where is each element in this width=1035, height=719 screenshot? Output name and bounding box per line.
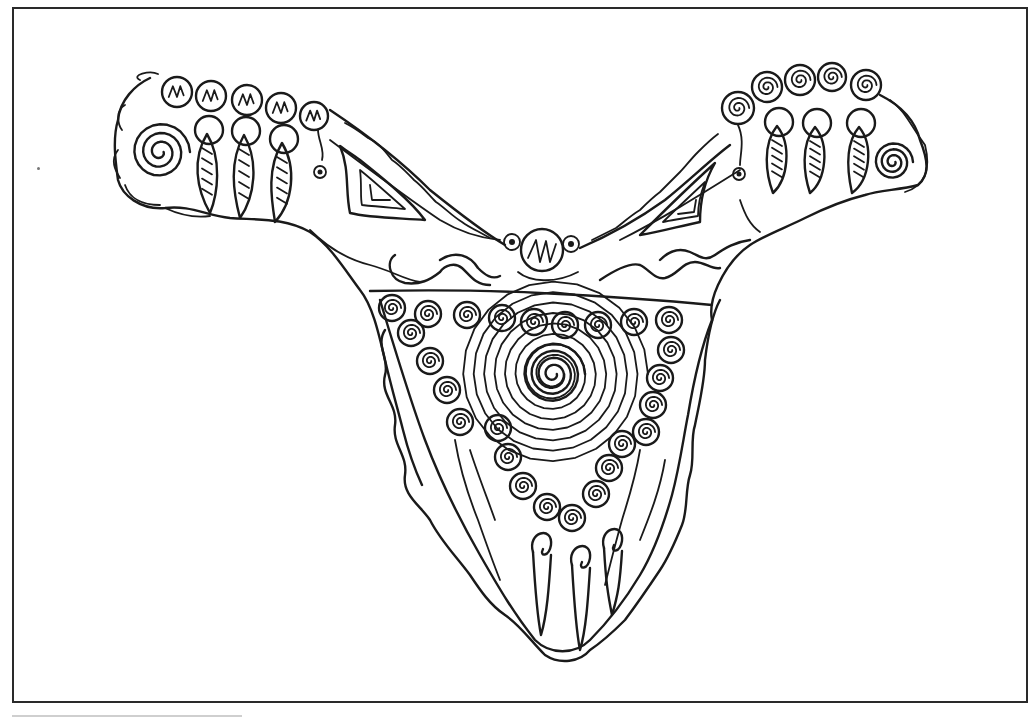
right-triangle-motif bbox=[620, 163, 740, 240]
leaf-pendant bbox=[234, 135, 254, 218]
hatched-bead bbox=[266, 93, 296, 123]
hatched-bead bbox=[232, 85, 262, 115]
pendant-ring bbox=[765, 108, 793, 136]
hook-pendant bbox=[571, 546, 590, 568]
hatched-bead bbox=[196, 81, 226, 111]
right-spiral-beads bbox=[722, 63, 881, 124]
left-hatched-beads bbox=[162, 77, 328, 130]
leaf-pendant bbox=[271, 143, 291, 222]
pendant-ring bbox=[847, 109, 875, 137]
right-eye-dot bbox=[733, 125, 745, 180]
center-hatched-bead bbox=[521, 229, 563, 271]
left-leaf-pendants bbox=[195, 116, 298, 222]
hook-pendant bbox=[532, 533, 551, 555]
hatched-bead bbox=[162, 77, 192, 107]
center-bead-group bbox=[504, 229, 579, 271]
pendant-ring bbox=[803, 109, 831, 137]
hatched-bead bbox=[300, 102, 328, 130]
bib-bottom-pendants bbox=[532, 529, 622, 650]
ornament-drawing bbox=[0, 0, 1035, 719]
leaf-pendant bbox=[197, 134, 217, 213]
right-wave-motifs bbox=[600, 200, 760, 280]
bib-spiral-beads bbox=[379, 295, 684, 531]
right-arm-spiral bbox=[876, 144, 913, 178]
left-arm-spiral bbox=[134, 124, 190, 175]
left-eye-dot bbox=[314, 130, 326, 178]
central-spiral bbox=[463, 282, 648, 462]
right-leaf-pendants bbox=[765, 108, 875, 193]
left-wave-motifs bbox=[310, 230, 500, 285]
